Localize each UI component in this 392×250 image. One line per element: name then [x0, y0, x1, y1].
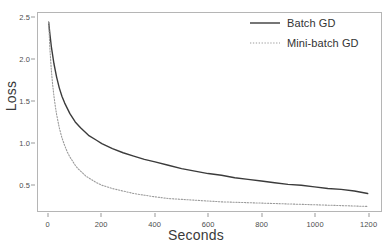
legend-line-icon — [250, 38, 280, 48]
legend-line-icon — [250, 18, 280, 28]
legend-entry: Mini-batch GD — [250, 36, 359, 49]
x-tick-mark — [315, 213, 316, 217]
y-tick-mark — [31, 143, 35, 144]
legend: Batch GDMini-batch GD — [250, 16, 359, 49]
x-tick-mark — [368, 213, 369, 217]
y-tick-mark — [31, 185, 35, 186]
loss-curve-figure: 0.51.01.52.02.5 Loss Batch GDMini-batch … — [0, 0, 392, 250]
y-axis-title: Loss — [3, 66, 19, 126]
y-tick-label: 2.5 — [19, 13, 30, 22]
legend-entry: Batch GD — [250, 16, 359, 29]
y-tick-mark — [31, 59, 35, 60]
x-tick-mark — [47, 213, 48, 217]
x-tick-mark — [154, 213, 155, 217]
series-line-mini-batch-gd — [49, 22, 368, 206]
x-tick-mark — [208, 213, 209, 217]
legend-label: Mini-batch GD — [287, 37, 359, 49]
y-tick-mark — [31, 101, 35, 102]
y-tick-label: 1.5 — [19, 97, 30, 106]
y-tick-mark — [31, 17, 35, 18]
y-tick-label: 2.0 — [19, 55, 30, 64]
y-tick-label: 1.0 — [19, 139, 30, 148]
x-axis-title: Seconds — [0, 227, 392, 243]
x-tick-mark — [261, 213, 262, 217]
legend-label: Batch GD — [287, 17, 336, 29]
x-tick-mark — [101, 213, 102, 217]
y-tick-label: 0.5 — [19, 181, 30, 190]
